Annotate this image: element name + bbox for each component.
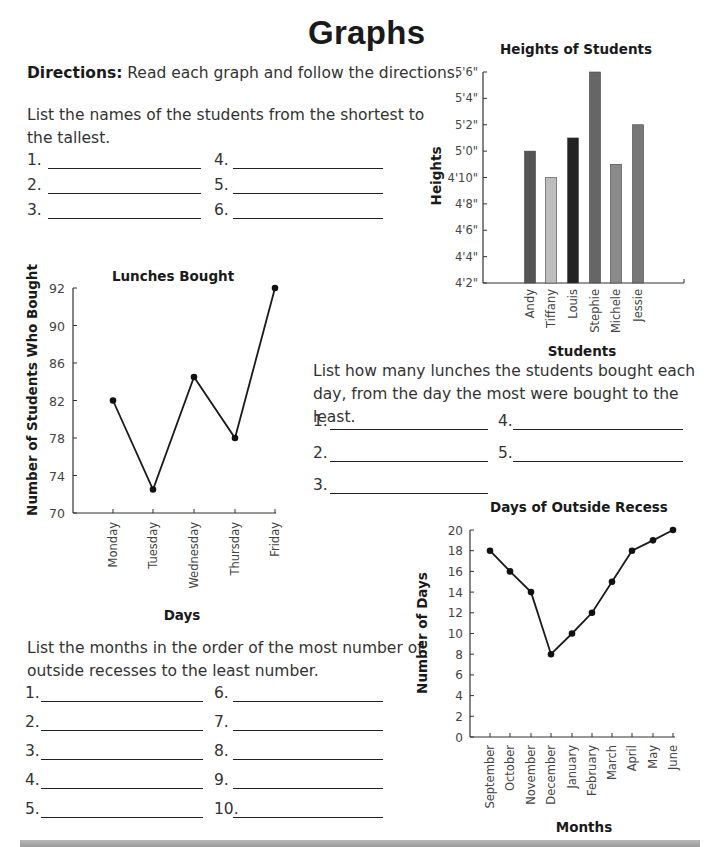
footer-bar [20, 840, 700, 847]
bar-tiffany [546, 178, 557, 284]
y-tick-label: 5'6" [455, 65, 478, 79]
y-tick-label: 4 [455, 689, 463, 703]
point-april [629, 547, 636, 554]
heights-chart-title: Heights of Students [500, 41, 652, 57]
x-tick-label: May [646, 745, 660, 769]
y-tick-label: 12 [448, 606, 463, 620]
point-wednesday [191, 374, 198, 381]
lunches-line-chart: Lunches Bought70747882869092MondayTuesda… [24, 264, 282, 623]
x-tick-label: October [503, 745, 517, 791]
x-tick-label: Friday [268, 522, 282, 557]
x-tick-label: Monday [106, 522, 120, 568]
y-tick-label: 4'2" [455, 276, 478, 290]
bar-andy [525, 151, 536, 283]
x-axis-title: Students [548, 343, 617, 359]
point-october [507, 568, 514, 575]
bar-jessie [633, 125, 644, 283]
y-tick-label: 14 [448, 586, 463, 600]
x-tick-label: Stephie [588, 289, 602, 333]
y-tick-label: 5'0" [455, 144, 478, 158]
x-tick-label: Thursday [228, 522, 242, 577]
x-tick-label: June [666, 745, 680, 771]
point-february [589, 610, 596, 617]
recess-line [490, 530, 673, 654]
y-tick-label: 16 [448, 565, 463, 579]
y-tick-label: 78 [49, 431, 65, 446]
y-tick-label: 5'4" [455, 91, 478, 105]
x-tick-label: Louis [566, 289, 580, 319]
y-tick-label: 20 [448, 524, 463, 538]
point-friday [272, 285, 279, 292]
point-january [569, 630, 576, 637]
x-tick-label: Wednesday [187, 522, 201, 589]
y-tick-label: 4'8" [455, 197, 478, 211]
x-tick-label: March [605, 745, 619, 780]
x-axis-title: Months [556, 819, 612, 835]
point-june [670, 527, 677, 534]
bar-louis [568, 138, 579, 283]
x-tick-label: November [524, 745, 538, 805]
point-march [609, 578, 616, 585]
y-tick-label: 86 [49, 356, 65, 371]
y-tick-label: 2 [455, 710, 463, 724]
x-tick-label: Michele [609, 289, 623, 333]
x-tick-label: Tiffany [544, 289, 558, 329]
point-september [487, 547, 494, 554]
lunches-chart-title: Lunches Bought [112, 268, 235, 284]
y-tick-label: 4'10" [448, 171, 478, 185]
recess-chart-title: Days of Outside Recess [490, 499, 668, 515]
heights-bar-chart: Heights of Students4'2"4'4"4'6"4'8"4'10"… [428, 41, 684, 359]
y-axis-title: Heights [428, 147, 444, 206]
y-tick-label: 70 [49, 506, 65, 521]
y-tick-label: 4'4" [455, 250, 478, 264]
y-tick-label: 74 [49, 469, 65, 484]
x-axis-title: Days [164, 607, 201, 623]
x-tick-label: September [483, 745, 497, 809]
y-tick-label: 92 [49, 281, 65, 296]
y-axis-title: Number of Days [414, 572, 430, 694]
x-tick-label: January [565, 745, 579, 790]
y-axis-title: Number of Students Who Bought [24, 264, 40, 516]
x-tick-label: April [625, 745, 639, 771]
y-tick-label: 5'2" [455, 118, 478, 132]
lunches-line [113, 288, 275, 490]
point-monday [110, 397, 117, 404]
y-tick-label: 82 [49, 394, 65, 409]
bar-stephie [590, 72, 601, 283]
charts-layer: Heights of Students4'2"4'4"4'6"4'8"4'10"… [0, 0, 706, 847]
y-tick-label: 10 [448, 627, 463, 641]
x-tick-label: Tuesday [146, 522, 160, 570]
y-tick-label: 90 [49, 319, 65, 334]
point-december [548, 651, 555, 658]
x-tick-label: February [585, 745, 599, 796]
y-tick-label: 4'6" [455, 223, 478, 237]
x-tick-label: Jessie [631, 289, 645, 323]
y-tick-label: 6 [455, 668, 463, 682]
recess-line-chart: Days of Outside Recess02468101214161820S… [414, 499, 680, 835]
x-tick-label: December [544, 745, 558, 805]
x-tick-label: Andy [523, 289, 537, 318]
y-tick-label: 18 [448, 544, 463, 558]
point-may [650, 537, 657, 544]
point-thursday [232, 435, 239, 442]
bar-michele [611, 164, 622, 283]
y-tick-label: 0 [455, 731, 463, 745]
y-tick-label: 8 [455, 648, 463, 662]
point-tuesday [150, 486, 157, 493]
point-november [528, 589, 535, 596]
